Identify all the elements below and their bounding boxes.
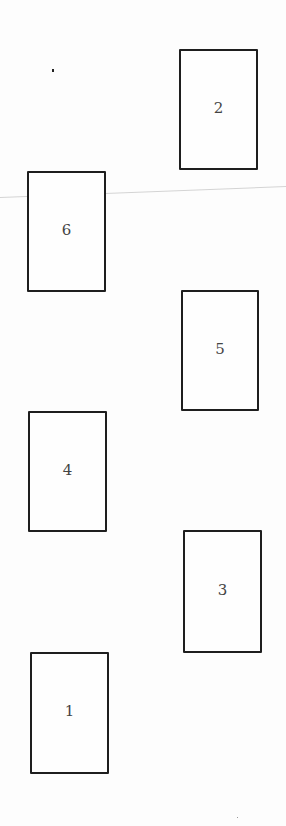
box-label: 2	[214, 99, 224, 117]
box-label: 6	[62, 221, 72, 239]
box-5: 5	[181, 290, 259, 411]
box-label: 4	[63, 461, 73, 479]
box-1: 1	[30, 652, 109, 774]
box-2: 2	[179, 49, 258, 170]
box-label: 1	[65, 702, 75, 720]
box-4: 4	[28, 411, 107, 532]
box-3: 3	[183, 530, 262, 653]
box-6: 6	[27, 171, 106, 292]
box-label: 5	[215, 340, 225, 358]
stray-speck	[237, 817, 238, 818]
stray-dot	[52, 69, 54, 72]
box-label: 3	[218, 581, 228, 599]
